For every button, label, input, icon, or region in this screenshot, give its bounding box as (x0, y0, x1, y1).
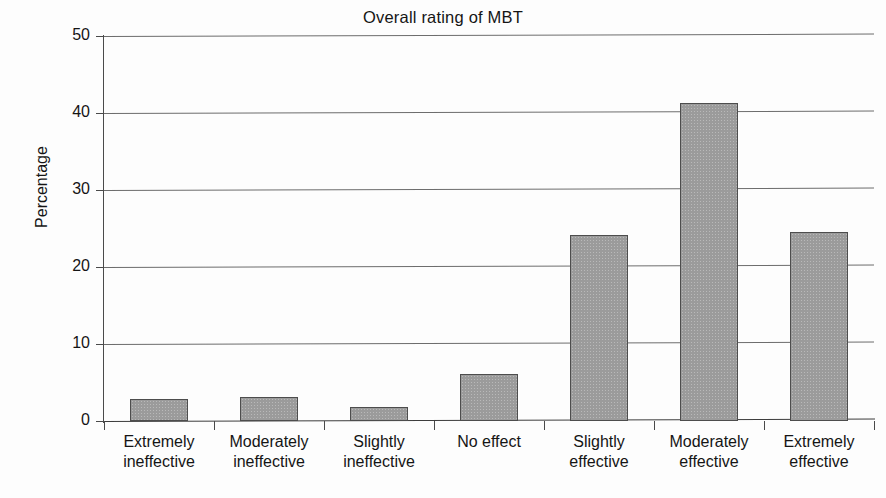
x-label-line-1: Extremely (783, 433, 854, 450)
bar (570, 235, 628, 421)
bar (460, 374, 518, 421)
bar (130, 399, 188, 421)
x-tick-mark (544, 421, 545, 430)
x-label-line-2: effective (764, 452, 874, 472)
y-tick-mark (96, 36, 104, 37)
x-axis-category-label: Extremelyeffective (764, 432, 874, 472)
y-tick-mark (96, 421, 104, 422)
x-axis-category-label: No effect (434, 432, 544, 452)
x-tick-mark (654, 421, 655, 430)
x-tick-mark (434, 421, 435, 430)
x-label-line-1: Moderately (669, 433, 748, 450)
bar (350, 407, 408, 421)
x-tick-mark (214, 421, 215, 430)
x-axis-category-label: Extremelyineffective (104, 432, 214, 472)
x-tick-mark (874, 421, 875, 430)
y-tick-mark (96, 190, 104, 191)
x-label-line-1: Slightly (573, 433, 625, 450)
x-label-line-2: effective (544, 452, 654, 472)
y-tick-label: 40 (38, 103, 90, 121)
x-tick-mark (764, 421, 765, 430)
y-tick-mark (96, 267, 104, 268)
plot-area (104, 36, 874, 421)
bar (790, 232, 848, 421)
y-tick-mark (96, 344, 104, 345)
y-tick-label: 50 (38, 26, 90, 44)
bar (680, 103, 738, 421)
x-axis-category-label: Moderatelyeffective (654, 432, 764, 472)
x-axis-category-label: Moderatelyineffective (214, 432, 324, 472)
y-tick-mark (96, 113, 104, 114)
y-tick-label: 20 (38, 257, 90, 275)
x-label-line-1: Moderately (229, 433, 308, 450)
y-tick-label: 30 (38, 180, 90, 198)
x-label-line-2: ineffective (324, 452, 434, 472)
chart-title: Overall rating of MBT (0, 8, 886, 27)
x-tick-mark (104, 421, 105, 430)
x-label-line-2: ineffective (104, 452, 214, 472)
x-label-line-1: No effect (457, 433, 521, 450)
y-tick-label: 0 (38, 411, 90, 429)
bar (240, 397, 298, 421)
x-label-line-2: ineffective (214, 452, 324, 472)
x-tick-mark (324, 421, 325, 430)
x-axis-category-label: Slightlyineffective (324, 432, 434, 472)
x-label-line-2: effective (654, 452, 764, 472)
bar-chart: Overall rating of MBT Percentage 0102030… (0, 0, 886, 498)
x-label-line-1: Extremely (123, 433, 194, 450)
x-label-line-1: Slightly (353, 433, 405, 450)
x-axis-category-label: Slightlyeffective (544, 432, 654, 472)
y-tick-label: 10 (38, 334, 90, 352)
